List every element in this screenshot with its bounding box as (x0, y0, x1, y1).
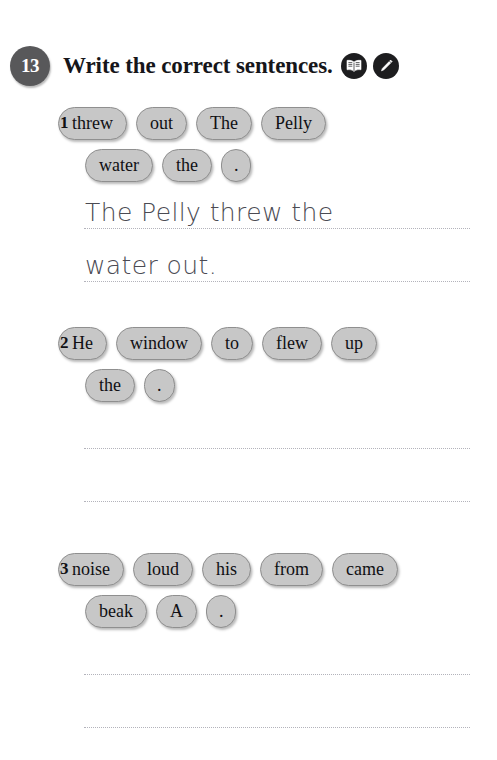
question-1: 1 threw out The Pelly water the . The Pe… (0, 102, 497, 292)
answer-line[interactable]: water out. (84, 239, 470, 292)
handwritten-answer: The Pelly threw the (85, 200, 333, 225)
punctuation-chip[interactable]: . (221, 149, 252, 182)
answer-line[interactable]: The Pelly threw the (84, 186, 470, 239)
exercise-number-badge: 13 (10, 46, 50, 86)
word-chip[interactable]: Pelly (261, 107, 326, 140)
header-icon-group (341, 53, 399, 79)
word-chip[interactable]: the (85, 369, 135, 402)
question-2-chip-row-2: the . (0, 364, 497, 406)
question-3-number: 3 (60, 559, 76, 579)
word-chip[interactable]: A (156, 595, 197, 628)
word-chip[interactable]: the (162, 149, 212, 182)
question-3: 3 noise loud his from came beak A . (0, 548, 497, 738)
pencil-icon (373, 53, 399, 79)
word-chip[interactable]: flew (262, 327, 322, 360)
word-chip[interactable]: from (260, 553, 323, 586)
answer-line[interactable] (84, 459, 470, 512)
question-2: 2 He window to flew up the . (0, 322, 497, 512)
handwritten-answer: water out. (85, 253, 217, 278)
answer-line[interactable] (84, 632, 470, 685)
word-chip[interactable]: loud (133, 553, 193, 586)
question-1-chip-row-2: water the . (0, 144, 497, 186)
word-chip[interactable]: window (116, 327, 202, 360)
word-chip[interactable]: beak (85, 595, 147, 628)
question-2-number: 2 (60, 333, 76, 353)
question-2-answer-area (0, 406, 497, 512)
question-1-number: 1 (60, 113, 76, 133)
word-chip[interactable]: water (85, 149, 153, 182)
exercise-header: 13 Write the correct sentences. (0, 44, 497, 88)
question-2-chip-row-1: 2 He window to flew up (0, 322, 497, 364)
open-book-icon (341, 53, 367, 79)
exercise-title: Write the correct sentences. (63, 53, 333, 79)
question-1-answer-area: The Pelly threw the water out. (0, 186, 497, 292)
punctuation-chip[interactable]: . (206, 595, 237, 628)
word-chip[interactable]: came (332, 553, 398, 586)
word-chip[interactable]: his (202, 553, 251, 586)
question-3-answer-area (0, 632, 497, 738)
answer-line[interactable] (84, 406, 470, 459)
answer-line[interactable] (84, 685, 470, 738)
word-chip[interactable]: The (196, 107, 252, 140)
word-chip[interactable]: out (136, 107, 187, 140)
punctuation-chip[interactable]: . (144, 369, 175, 402)
question-3-chip-row-2: beak A . (0, 590, 497, 632)
word-chip[interactable]: up (331, 327, 377, 360)
question-3-chip-row-1: 3 noise loud his from came (0, 548, 497, 590)
question-1-chip-row-1: 1 threw out The Pelly (0, 102, 497, 144)
word-chip[interactable]: to (211, 327, 253, 360)
